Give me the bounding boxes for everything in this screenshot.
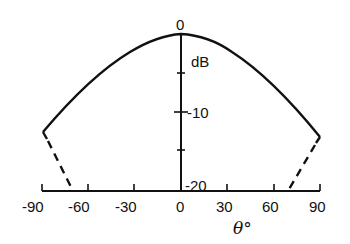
- x-label-minus60: -60: [68, 198, 90, 215]
- chart: 0 dB -10 -20 -90 -60 -30 0 30 60 90 θ°: [0, 0, 350, 244]
- x-label-minus30: -30: [115, 198, 137, 215]
- y-label-minus10: -10: [187, 104, 209, 121]
- x-label-30: 30: [216, 198, 233, 215]
- x-label-60: 60: [262, 198, 279, 215]
- right-dashed-extrapolation: [288, 145, 315, 191]
- x-axis-title: θ°: [233, 218, 252, 238]
- left-corner: [43, 132, 47, 139]
- x-label-90: 90: [309, 198, 326, 215]
- right-corner: [316, 137, 320, 143]
- y-unit-label: dB: [191, 53, 209, 70]
- x-label-minus90: -90: [22, 198, 44, 215]
- y-label-minus20: -20: [185, 177, 207, 194]
- y-label-0: 0: [176, 16, 184, 33]
- x-label-0: 0: [176, 198, 184, 215]
- left-dashed-extrapolation: [48, 141, 73, 191]
